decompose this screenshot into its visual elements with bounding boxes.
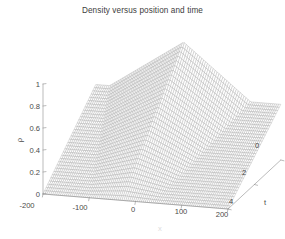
ztick-1: 1 (36, 80, 40, 89)
ztick-0.8: 0.8 (29, 102, 40, 111)
z-axis-label: ρ (15, 138, 24, 142)
ztick-0.6: 0.6 (29, 124, 40, 133)
ttick-2: 2 (242, 168, 246, 177)
figure-canvas: Density versus position and time 1 0.8 0… (0, 0, 285, 239)
mesh-surface-plot (0, 0, 285, 239)
xtick-0: 0 (131, 205, 135, 214)
xtick--100: -100 (72, 203, 87, 212)
ttick-4: 4 (229, 197, 233, 206)
ztick-0: 0 (36, 190, 40, 199)
ttick-0: 0 (255, 141, 259, 150)
ztick-0.2: 0.2 (29, 168, 40, 177)
xtick--200: -200 (19, 201, 34, 210)
x-axis-label: x (158, 224, 162, 233)
xtick-100: 100 (175, 207, 188, 216)
ztick-0.4: 0.4 (29, 146, 40, 155)
t-axis-label: t (264, 198, 266, 207)
xtick-200: 200 (216, 210, 229, 219)
